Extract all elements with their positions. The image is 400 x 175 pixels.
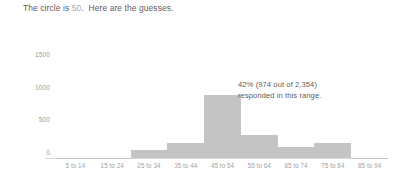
bar-series: 5 to 1415 to 2425 to 3435 to 4445 to 545… [57, 45, 388, 158]
page-title-highlight-value: 50 [72, 3, 82, 13]
x-axis-tick-label: 35 to 44 [174, 162, 197, 169]
y-axis-tick-label: 500 [39, 116, 50, 123]
x-axis-tick-label: 45 to 54 [211, 162, 234, 169]
page-title-prefix: The circle is [23, 3, 72, 13]
x-axis-tick-label: 25 to 34 [137, 162, 160, 169]
x-axis-tick-label: 55 to 64 [248, 162, 271, 169]
bar-slot: 5 to 14 [57, 45, 94, 158]
x-axis-tick-label: 85 to 94 [358, 162, 381, 169]
y-axis-tick-label: 0 [46, 149, 50, 156]
x-axis-line [45, 158, 388, 159]
bar-slot: 75 to 84 [314, 45, 351, 158]
annotation-line-2: responded in this range. [238, 90, 321, 101]
bar[interactable] [241, 135, 278, 158]
bar-slot: 55 to 64 [241, 45, 278, 158]
bar[interactable] [278, 147, 315, 158]
x-axis-tick-label: 15 to 24 [101, 162, 124, 169]
y-axis-tick-label: 1000 [35, 83, 50, 90]
bar[interactable] [314, 143, 351, 158]
bar-slot: 85 to 94 [351, 45, 388, 158]
bar-slot: 45 to 54 [204, 45, 241, 158]
bar[interactable] [204, 95, 241, 158]
page-title-suffix: . Here are the guesses. [81, 3, 173, 13]
histogram-screenshot: The circle is 50. Here are the guesses. … [0, 0, 400, 175]
bar-slot: 65 to 74 [278, 45, 315, 158]
annotation-line-1: 42% (974 out of 2,354) [238, 79, 321, 90]
y-axis-tick-label: 1500 [35, 51, 50, 58]
bar-slot: 25 to 34 [131, 45, 168, 158]
chart-annotation: 42% (974 out of 2,354) responded in this… [238, 79, 321, 101]
bar[interactable] [167, 143, 204, 158]
chart-plot-area: 050010001500 5 to 1415 to 2425 to 3435 t… [57, 45, 388, 159]
x-axis-tick-label: 75 to 84 [321, 162, 344, 169]
bar-slot: 35 to 44 [167, 45, 204, 158]
page-title: The circle is 50. Here are the guesses. [23, 2, 174, 14]
bar-slot: 15 to 24 [94, 45, 131, 158]
x-axis-tick-label: 65 to 74 [284, 162, 307, 169]
x-axis-tick-label: 5 to 14 [66, 162, 86, 169]
bar[interactable] [131, 150, 168, 158]
